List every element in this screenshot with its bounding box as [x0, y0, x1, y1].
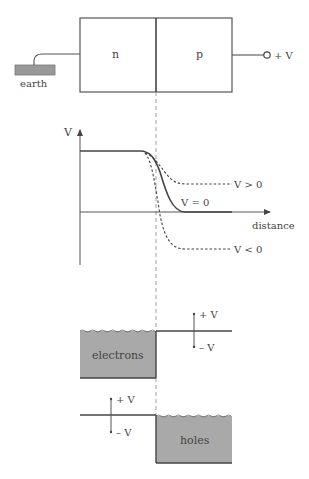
- electron-minus-v: – V: [199, 342, 215, 353]
- terminal-label: + V: [274, 50, 294, 61]
- n-region-label: n: [112, 48, 119, 61]
- pn-junction-diagram: n p earth + V V distance V > 0 V = 0 V <…: [0, 0, 309, 479]
- potential-graph: V distance V > 0 V = 0 V < 0: [63, 126, 295, 265]
- p-region-label: p: [196, 48, 203, 61]
- positive-terminal: + V: [232, 50, 294, 61]
- hole-band: holes + V – V: [80, 394, 232, 463]
- terminal-circle-icon: [264, 52, 270, 58]
- electron-plus-v: + V: [199, 309, 219, 320]
- earth-block: [15, 65, 55, 75]
- plus-dot-icon: [110, 398, 112, 400]
- minus-dot-icon: [193, 346, 195, 348]
- hole-plus-v: + V: [116, 394, 136, 405]
- junction-block: n p: [80, 18, 232, 92]
- minus-dot-icon: [110, 431, 112, 433]
- label-v-zero: V = 0: [180, 197, 209, 208]
- label-v-positive: V > 0: [233, 179, 262, 190]
- y-axis-label: V: [63, 126, 73, 139]
- earth-label: earth: [20, 78, 48, 89]
- earth-ground: earth: [15, 54, 80, 89]
- holes-label: holes: [180, 434, 210, 447]
- plus-dot-icon: [193, 313, 195, 315]
- electrons-label: electrons: [92, 349, 144, 362]
- earth-wire: [34, 54, 80, 65]
- label-v-negative: V < 0: [233, 244, 262, 255]
- x-axis-label: distance: [252, 220, 295, 231]
- hole-minus-v: – V: [116, 427, 132, 438]
